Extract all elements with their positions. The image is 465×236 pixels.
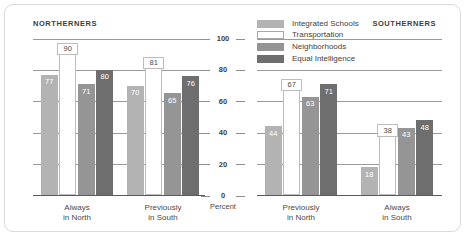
bar [59, 54, 76, 195]
axis-unit-label: Percent [203, 203, 243, 211]
axis-tick [201, 39, 210, 40]
category-label: Alwaysin North [37, 203, 117, 224]
bar-value-label: 38 [377, 124, 398, 137]
category-label: Alwaysin South [357, 203, 437, 224]
bar-value-label: 67 [281, 79, 302, 92]
bar [320, 84, 337, 195]
axis-tick [236, 101, 245, 102]
gridline [257, 70, 442, 71]
axis-tick [236, 133, 245, 134]
axis-tick [201, 196, 210, 197]
bar-value-label: 18 [361, 171, 378, 179]
axis-tick [236, 70, 245, 71]
bar-value-label: 43 [398, 131, 415, 139]
bar-value-label: 77 [41, 78, 58, 86]
axis-tick-label: 40 [211, 129, 235, 137]
bar [41, 75, 58, 196]
axis-tick-label: 20 [211, 161, 235, 169]
axis-tick [201, 70, 210, 71]
bar-value-label: 80 [96, 73, 113, 81]
bar-value-label: 71 [78, 88, 95, 96]
bar-value-label: 76 [182, 80, 199, 88]
axis-tick [201, 164, 210, 165]
bar [145, 68, 162, 195]
bar-value-label: 63 [302, 100, 319, 108]
axis-tick [236, 196, 245, 197]
bar-value-label: 71 [320, 88, 337, 96]
bar-value-label: 65 [164, 97, 181, 105]
axis-tick-label: 60 [211, 98, 235, 106]
plot-area: 7770908171658076Alwaysin NorthPreviously… [5, 5, 460, 236]
gridline [33, 39, 205, 40]
bar [302, 97, 319, 196]
axis-tick [201, 133, 210, 134]
axis-tick [201, 101, 210, 102]
axis-tick [236, 164, 245, 165]
bar [96, 70, 113, 196]
axis-tick [236, 39, 245, 40]
axis-tick-label: 100 [211, 35, 235, 43]
bar-value-label: 44 [265, 130, 282, 138]
bar-value-label: 90 [57, 43, 78, 56]
bar [78, 84, 95, 195]
bar [127, 86, 144, 196]
bar [164, 93, 181, 195]
chart-panel: NORTHERNERS SOUTHERNERS Integrated Schoo… [4, 4, 461, 232]
gridline [257, 39, 442, 40]
bar [283, 90, 300, 195]
bar [182, 76, 199, 195]
axis-tick-label: 80 [211, 66, 235, 74]
bar-value-label: 81 [143, 57, 164, 70]
bar-value-label: 70 [127, 89, 144, 97]
axis-tick-label: 0 [211, 192, 235, 200]
category-label: Previouslyin South [123, 203, 203, 224]
bar-value-label: 48 [416, 124, 433, 132]
category-label: Previouslyin North [261, 203, 341, 224]
bar [379, 136, 396, 196]
